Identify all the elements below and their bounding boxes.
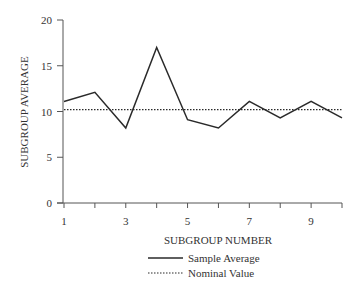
y-tick-label: 0 [47,197,53,209]
x-axis-title: SUBGROUP NUMBER [164,234,273,246]
y-tick-label: 20 [41,14,53,26]
y-axis-title: SUBGROUP AVERAGE [18,56,30,168]
legend-label-sample-average: Sample Average [188,252,260,264]
legend: Sample Average Nominal Value [148,252,260,279]
x-tick-label: 9 [308,215,314,227]
y-tick-label: 10 [41,106,53,118]
series-lines [64,47,342,128]
x-tick-label: 7 [247,215,253,227]
sample-average-line [64,47,342,128]
x-tick-label: 5 [185,215,191,227]
line-chart: 0510152013579 SUBGROUP AVERAGE SUBGROUP … [0,0,358,291]
y-tick-label: 5 [47,151,53,163]
x-tick-label: 1 [61,215,67,227]
legend-label-nominal-value: Nominal Value [188,267,254,279]
y-tick-label: 15 [41,60,53,72]
x-tick-label: 3 [123,215,129,227]
